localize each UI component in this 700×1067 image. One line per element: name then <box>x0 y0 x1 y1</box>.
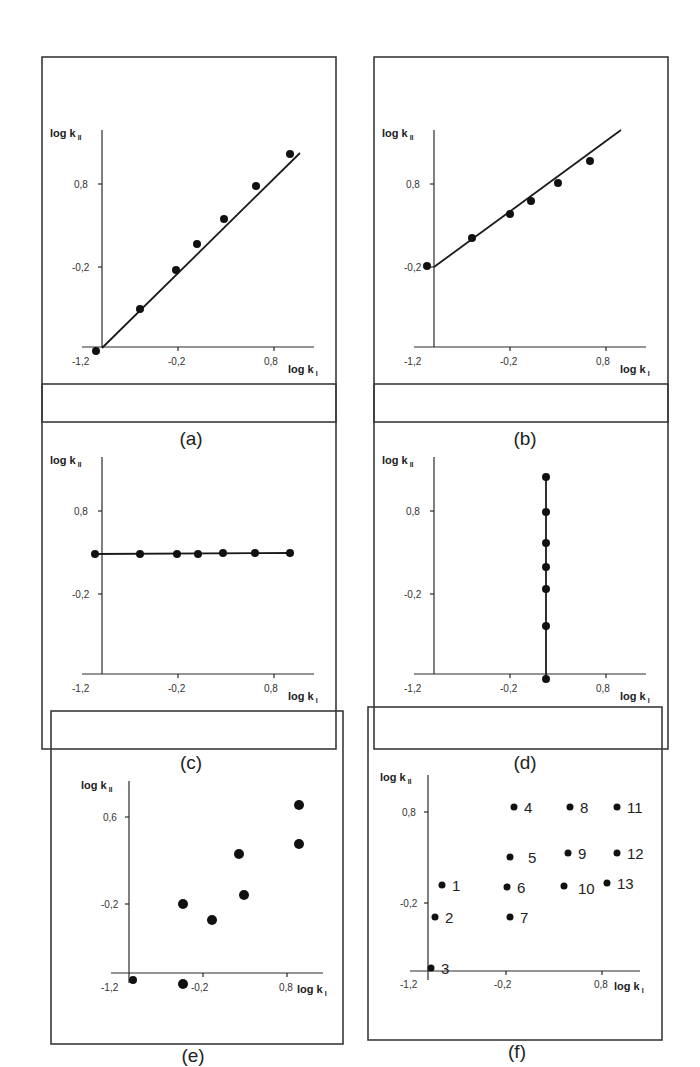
caption-e: (e) <box>163 1045 223 1067</box>
fit-line <box>434 130 621 267</box>
x-tick-0.8: 0,8 <box>264 356 278 367</box>
svg-text:5: 5 <box>528 849 536 866</box>
y-axis-label: log kII <box>81 779 113 793</box>
x-axis-label: log kI <box>297 983 327 997</box>
y-tick-0.8: 0,8 <box>406 506 420 517</box>
data-points <box>92 150 294 355</box>
x-tick-neg0.2: -0,2 <box>500 683 518 694</box>
svg-text:11: 11 <box>627 799 643 816</box>
data-points: 1 2 3 4 5 6 7 8 9 10 11 12 13 <box>428 799 644 977</box>
svg-text:13: 13 <box>617 875 634 892</box>
chart-d: 0,8 -0,2 -1,2 -0,2 0,8 log kII log kI <box>374 384 668 752</box>
svg-text:2: 2 <box>445 909 453 926</box>
y-tick-0.8: 0,8 <box>406 179 420 190</box>
svg-text:4: 4 <box>524 799 532 816</box>
y-axis-label: log kII <box>380 771 412 785</box>
y-tick-0.8: 0,8 <box>74 179 88 190</box>
fit-line <box>95 553 290 554</box>
chart-b: 0,8 -0,2 -1,2 -0,2 0,8 log kII log kI <box>374 57 668 425</box>
panel-f: 0,8 -0,2 -1,2 -0,2 0,8 log kII log kI 1 … <box>368 707 662 1043</box>
y-tick-0.8: 0,8 <box>74 506 88 517</box>
svg-text:12: 12 <box>627 845 644 862</box>
svg-text:10: 10 <box>578 880 595 897</box>
x-tick-neg1.2: -1,2 <box>404 356 422 367</box>
chart-a: 0,8 -0,2 -1,2 -0,2 0,8 log kII log kI <box>42 57 336 425</box>
y-tick-neg0.2: -0,2 <box>72 262 90 273</box>
panel-b: 0,8 -0,2 -1,2 -0,2 0,8 log kII log kI <box>374 57 668 425</box>
chart-f: 0,8 -0,2 -1,2 -0,2 0,8 log kII log kI 1 … <box>368 707 662 1043</box>
panel-e: 0,6 -0,2 -1,2 -0,2 0,8 log kII log kI <box>51 711 343 1047</box>
x-tick-0.8: 0,8 <box>279 982 293 993</box>
chart-e: 0,6 -0,2 -1,2 -0,2 0,8 log kII log kI <box>51 711 343 1047</box>
x-tick-neg1.2: -1,2 <box>404 683 422 694</box>
svg-text:7: 7 <box>520 909 528 926</box>
x-axis-label: log kI <box>288 690 318 704</box>
x-tick-0.8: 0,8 <box>596 683 610 694</box>
x-axis-label: log kI <box>288 363 318 377</box>
x-tick-neg1.2: -1,2 <box>72 683 90 694</box>
x-axis-label: log kI <box>620 363 650 377</box>
svg-text:1: 1 <box>452 877 460 894</box>
y-axis-label: log kII <box>382 127 414 141</box>
y-tick-0.6: 0,6 <box>103 812 117 823</box>
y-tick-neg0.2: -0,2 <box>101 899 119 910</box>
x-axis-label: log kI <box>620 690 650 704</box>
x-tick-neg1.2: -1,2 <box>101 982 119 993</box>
svg-text:6: 6 <box>517 879 525 896</box>
x-tick-0.8: 0,8 <box>596 356 610 367</box>
x-tick-neg0.2: -0,2 <box>500 356 518 367</box>
svg-text:3: 3 <box>441 960 449 977</box>
y-axis-label: log kII <box>50 454 82 468</box>
x-tick-0.8: 0,8 <box>594 979 608 990</box>
y-tick-neg0.2: -0,2 <box>72 589 90 600</box>
x-tick-neg1.2: -1,2 <box>400 979 418 990</box>
data-points <box>423 157 594 270</box>
svg-text:9: 9 <box>578 845 586 862</box>
x-tick-0.8: 0,8 <box>264 683 278 694</box>
fit-line <box>102 153 300 348</box>
x-tick-neg0.2: -0,2 <box>191 982 209 993</box>
y-axis-label: log kII <box>50 127 82 141</box>
y-tick-neg0.2: -0,2 <box>400 898 418 909</box>
svg-text:8: 8 <box>580 799 588 816</box>
data-points <box>129 800 304 989</box>
panel-d: 0,8 -0,2 -1,2 -0,2 0,8 log kII log kI <box>374 384 668 752</box>
panel-c: 0,8 -0,2 -1,2 -0,2 0,8 log kII log kI <box>42 384 336 752</box>
y-axis-label: log kII <box>382 454 414 468</box>
y-tick-0.8: 0,8 <box>402 807 416 818</box>
x-axis-label: log kI <box>614 980 644 994</box>
x-tick-neg0.2: -0,2 <box>168 683 186 694</box>
panel-a: 0,8 -0,2 -1,2 -0,2 0,8 log kII log kI <box>42 57 336 425</box>
x-tick-neg0.2: -0,2 <box>168 356 186 367</box>
x-tick-neg1.2: -1,2 <box>72 356 90 367</box>
chart-c: 0,8 -0,2 -1,2 -0,2 0,8 log kII log kI <box>42 384 336 752</box>
y-tick-neg0.2: -0,2 <box>404 262 422 273</box>
caption-f: (f) <box>487 1041 547 1063</box>
x-tick-neg0.2: -0,2 <box>494 979 512 990</box>
y-tick-neg0.2: -0,2 <box>404 589 422 600</box>
